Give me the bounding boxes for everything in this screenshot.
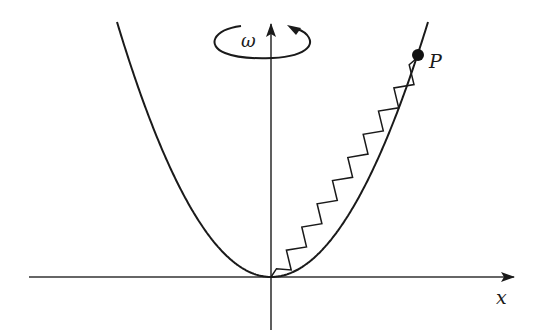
point-label: P — [428, 50, 443, 72]
omega-label: ω — [241, 30, 256, 51]
diagram-canvas: ω P x — [0, 0, 535, 335]
rotation-arrowhead-icon — [287, 25, 301, 35]
parabola-curve — [117, 22, 428, 277]
x-axis-label: x — [496, 286, 507, 308]
mass-point-p — [412, 49, 424, 61]
spring — [271, 55, 418, 277]
